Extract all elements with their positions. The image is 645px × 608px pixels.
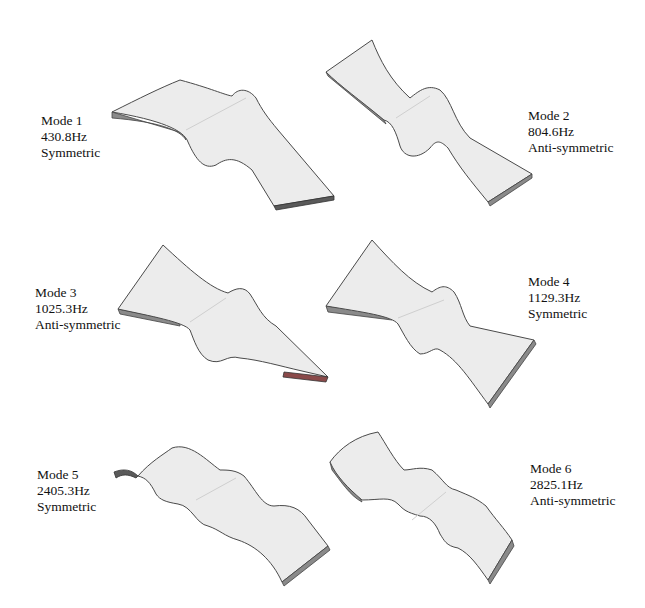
- mode-1-frequency: 430.8Hz: [41, 129, 100, 145]
- mode-3-name: Mode 3: [35, 285, 120, 301]
- mode-5-frequency: 2405.3Hz: [37, 483, 96, 499]
- mode-4-label: Mode 4 1129.3Hz Symmetric: [528, 274, 587, 322]
- mode-3-symmetry: Anti-symmetric: [35, 317, 120, 333]
- mode-6-symmetry: Anti-symmetric: [530, 493, 615, 509]
- mode-5-name: Mode 5: [37, 467, 96, 483]
- mode-1-label: Mode 1 430.8Hz Symmetric: [41, 113, 100, 161]
- mode-shapes-figure: Mode 1 430.8Hz Symmetric Mode 2 804.6Hz …: [0, 0, 645, 608]
- mode-3-shape: [118, 245, 328, 382]
- mode-2-symmetry: Anti-symmetric: [528, 140, 613, 156]
- mode-2-shape: [326, 40, 532, 206]
- mode-4-name: Mode 4: [528, 274, 587, 290]
- mode-2-frequency: 804.6Hz: [528, 124, 613, 140]
- mode-5-label: Mode 5 2405.3Hz Symmetric: [37, 467, 96, 515]
- mode-6-shape: [330, 432, 514, 584]
- mode-5-shape: [114, 447, 330, 586]
- mode-1-name: Mode 1: [41, 113, 100, 129]
- mode-6-label: Mode 6 2825.1Hz Anti-symmetric: [530, 461, 615, 509]
- mode-4-symmetry: Symmetric: [528, 306, 587, 322]
- mode-6-name: Mode 6: [530, 461, 615, 477]
- mode-5-symmetry: Symmetric: [37, 499, 96, 515]
- mode-6-frequency: 2825.1Hz: [530, 477, 615, 493]
- mode-2-label: Mode 2 804.6Hz Anti-symmetric: [528, 108, 613, 156]
- mode-3-label: Mode 3 1025.3Hz Anti-symmetric: [35, 285, 120, 333]
- mode-1-shape: [112, 80, 334, 210]
- mode-2-name: Mode 2: [528, 108, 613, 124]
- mode-3-frequency: 1025.3Hz: [35, 301, 120, 317]
- mode-1-symmetry: Symmetric: [41, 145, 100, 161]
- mode-4-shape: [326, 240, 536, 408]
- mode-4-frequency: 1129.3Hz: [528, 290, 587, 306]
